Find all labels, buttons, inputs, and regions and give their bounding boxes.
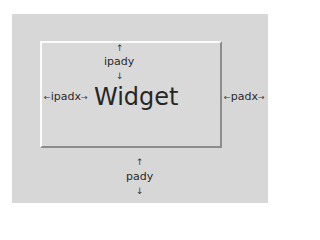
ipadx-right-arrow-icon: → [81,93,88,102]
pady-label: pady [126,171,153,183]
ipady-up-arrow-icon: ↑ [116,44,124,53]
padx-label: padx [231,90,258,103]
pady-up-arrow-icon: ↑ [136,158,144,167]
padx-annotation: ←padx→ [224,91,265,104]
widget-label: Widget [94,83,179,111]
ipadx-left-arrow-icon: ← [44,93,51,102]
padx-left-arrow-icon: ← [224,93,231,102]
ipady-down-arrow-icon: ↓ [116,72,124,81]
pady-down-arrow-icon: ↓ [136,187,144,196]
ipadx-annotation: ←ipadx→ [44,91,88,104]
ipady-label: ipady [104,56,134,68]
ipadx-label: ipadx [51,90,81,103]
padx-right-arrow-icon: → [258,93,265,102]
